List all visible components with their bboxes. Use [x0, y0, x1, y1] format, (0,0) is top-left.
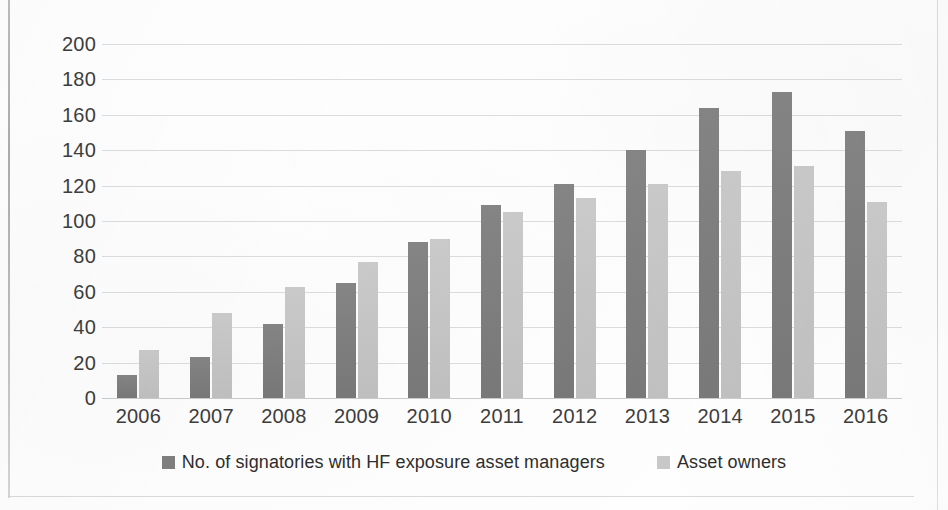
bar [408, 242, 428, 398]
bar [503, 212, 523, 398]
x-axis-tick-label: 2009 [334, 404, 379, 428]
bar [263, 324, 283, 398]
y-axis-tick-label: 120 [62, 176, 96, 196]
legend-swatch-icon [657, 456, 670, 469]
bar [139, 350, 159, 398]
bar-group [772, 44, 814, 398]
bar [845, 131, 865, 398]
bar-group [408, 44, 450, 398]
bar [117, 375, 137, 398]
y-axis-tick-label: 40 [73, 317, 96, 337]
bar [285, 287, 305, 399]
bar-group [263, 44, 305, 398]
bar-group [626, 44, 668, 398]
y-axis-tick-label: 160 [62, 105, 96, 125]
x-axis-tick-label: 2008 [261, 404, 306, 428]
y-axis-tick-label: 200 [62, 34, 96, 54]
bar [212, 313, 232, 398]
y-axis-tick-label: 180 [62, 69, 96, 89]
bar [699, 108, 719, 398]
plot-area [102, 44, 902, 398]
bar-group [554, 44, 596, 398]
x-axis-tick-label: 2006 [116, 404, 161, 428]
bar-group [336, 44, 378, 398]
bar [336, 283, 356, 398]
chart-page: 020406080100120140160180200 200620072008… [0, 0, 948, 510]
legend-entry[interactable]: No. of signatories with HF exposure asse… [162, 452, 605, 472]
bar [576, 198, 596, 398]
x-axis-tick-label: 2014 [698, 404, 743, 428]
y-axis-tick-label: 140 [62, 140, 96, 160]
bar-series-container [102, 44, 902, 398]
x-axis-tick-label: 2016 [843, 404, 888, 428]
x-axis-tick-label: 2015 [770, 404, 815, 428]
bar-group [845, 44, 887, 398]
bar [867, 202, 887, 398]
legend-label: No. of signatories with HF exposure asse… [182, 452, 605, 472]
x-axis-tick-label: 2013 [625, 404, 670, 428]
x-axis-baseline [102, 398, 902, 399]
bar-group [699, 44, 741, 398]
y-axis-tick-labels: 020406080100120140160180200 [42, 44, 96, 398]
bar [648, 184, 668, 398]
bar [481, 205, 501, 398]
bar [772, 92, 792, 398]
x-axis-tick-label: 2010 [407, 404, 452, 428]
x-axis-tick-label: 2012 [552, 404, 597, 428]
legend-entry[interactable]: Asset owners [657, 452, 786, 472]
bar [358, 262, 378, 398]
bar-group [481, 44, 523, 398]
bar-group [117, 44, 159, 398]
bar-group [190, 44, 232, 398]
grouped-bar-chart: 020406080100120140160180200 200620072008… [0, 0, 948, 510]
bar [721, 171, 741, 398]
legend-swatch-icon [162, 456, 175, 469]
legend-label: Asset owners [677, 452, 786, 472]
bar [190, 357, 210, 398]
x-axis-tick-label: 2011 [480, 404, 524, 428]
bar [794, 166, 814, 398]
y-axis-tick-label: 80 [73, 246, 96, 266]
x-axis-tick-labels: 2006200720082009201020112012201320142015… [102, 404, 902, 436]
y-axis-tick-label: 0 [85, 388, 96, 408]
bar [430, 239, 450, 398]
y-axis-tick-label: 60 [73, 282, 96, 302]
bar [626, 150, 646, 398]
y-axis-tick-label: 100 [62, 211, 96, 231]
bar [554, 184, 574, 398]
y-axis-tick-label: 20 [73, 353, 96, 373]
chart-legend: No. of signatories with HF exposure asse… [0, 452, 948, 472]
x-axis-tick-label: 2007 [188, 404, 233, 428]
